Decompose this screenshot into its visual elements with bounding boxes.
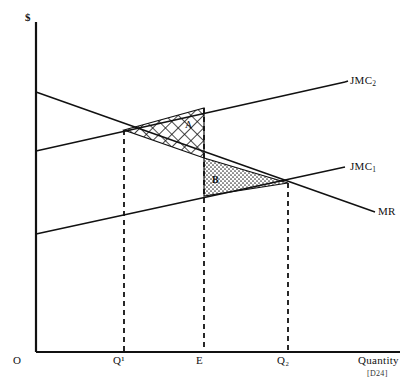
- region-b-label: B: [212, 174, 219, 185]
- jmc1-curve: [36, 167, 345, 234]
- x-tick-label-q1: Q¹: [113, 354, 125, 366]
- jmc1-label-text: JMC: [350, 160, 372, 172]
- mr-label: MR: [378, 205, 396, 217]
- economics-diagram: [0, 0, 408, 384]
- figure-code: [D24]: [367, 369, 388, 378]
- y-axis-label: $: [25, 11, 31, 23]
- x-axis-label: Quantity: [358, 354, 399, 366]
- x-tick-label-e: E: [196, 354, 203, 366]
- jmc2-label-text: JMC: [350, 74, 372, 86]
- origin-label: O: [13, 354, 21, 366]
- jmc1-label-sub: 1: [372, 165, 376, 174]
- jmc1-label: JMC1: [350, 160, 376, 174]
- x-tick-label-q2: Q₂: [277, 354, 289, 366]
- jmc2-label-sub: 2: [372, 79, 376, 88]
- region-a-label: A: [185, 119, 193, 130]
- jmc2-label: JMC2: [350, 74, 376, 88]
- jmc2-leader: [345, 81, 348, 82]
